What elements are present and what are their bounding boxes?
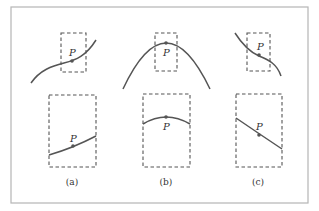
panel-c-caption: (c): [252, 177, 264, 187]
panel-c-point-label: P: [256, 41, 264, 52]
panel-c-zoomed-point: [257, 133, 261, 137]
panel-a-caption: (a): [66, 177, 78, 187]
panel-c: P P (c): [235, 33, 282, 187]
panel-a-large-dashed-box: [49, 95, 96, 167]
panel-a: P P (a): [31, 33, 96, 187]
panel-b-zoomed-point: [164, 115, 168, 119]
outer-frame: [11, 7, 308, 203]
panel-a-point-label: P: [68, 47, 76, 58]
panel-a-zoomed-point-label: P: [69, 133, 77, 144]
panel-b-point: [164, 41, 168, 45]
panel-c-point: [257, 53, 261, 57]
panel-c-small-dashed-box: [247, 33, 270, 71]
panel-c-zoomed-point-label: P: [255, 121, 263, 132]
panel-b-caption: (b): [160, 177, 173, 187]
panel-b: P P (b): [123, 33, 210, 187]
panel-b-zoomed-point-label: P: [162, 121, 170, 132]
panel-a-zoomed-point: [71, 144, 75, 148]
figure-canvas: P P (a) P P (b) P P (c): [0, 0, 319, 211]
panel-b-point-label: P: [162, 47, 170, 58]
panel-a-point: [70, 59, 74, 63]
